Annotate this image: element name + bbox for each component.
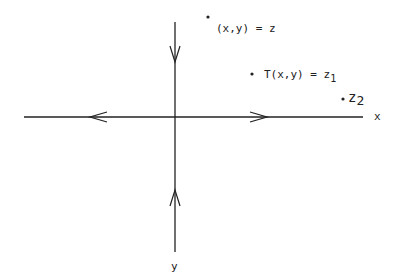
point-z2-dot <box>341 97 344 100</box>
point-z2-subscript: 2 <box>356 93 364 108</box>
point-z1-label: T(x,y) = z1 <box>264 69 336 80</box>
point-z1-text: T(x,y) = z <box>264 68 330 81</box>
x-axis-label: x <box>374 111 381 122</box>
point-z2-label: z2 <box>348 90 364 104</box>
point-z-text: (x,y) = z <box>216 22 276 35</box>
phase-diagram: (x,y) = z T(x,y) = z1 z2 x y <box>0 0 401 278</box>
point-z-label: (x,y) = z <box>216 23 276 34</box>
point-z-dot <box>206 15 209 18</box>
y-axis-label: y <box>171 261 178 272</box>
diagram-svg <box>0 0 401 278</box>
point-z1-subscript: 1 <box>330 73 336 84</box>
point-z1-dot <box>250 72 253 75</box>
